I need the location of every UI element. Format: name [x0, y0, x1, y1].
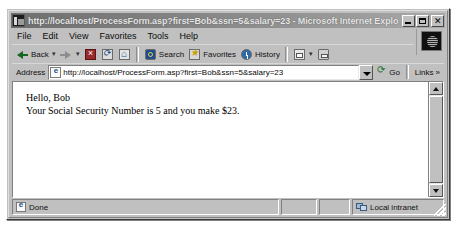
- security-zone-panel[interactable]: Local intranet: [352, 199, 444, 215]
- window-title: http://localhost/ProcessForm.asp?first=B…: [28, 16, 398, 26]
- menu-item-file[interactable]: File: [12, 30, 38, 43]
- favorites-button-label: Favorites: [203, 50, 236, 59]
- browser-logo-inner: [421, 31, 442, 51]
- go-button[interactable]: Go: [373, 65, 404, 80]
- close-button[interactable]: ✕: [431, 15, 444, 27]
- search-icon: [144, 48, 157, 61]
- rendered-page: Hello, Bob Your Social Security Number i…: [13, 82, 428, 197]
- print-button[interactable]: [315, 46, 332, 63]
- address-bar: Address http://localhost/ProcessForm.asp…: [12, 63, 444, 80]
- document-area: Hello, Bob Your Social Security Number i…: [12, 81, 444, 198]
- links-label: Links: [415, 68, 434, 77]
- back-button-label: Back: [31, 50, 49, 59]
- favorites-star-icon: [188, 48, 201, 61]
- stop-icon: [84, 48, 97, 61]
- close-icon: ✕: [432, 16, 443, 26]
- status-document-icon: [16, 202, 26, 212]
- menu-item-tools[interactable]: Tools: [142, 30, 174, 43]
- scroll-down-arrow-icon[interactable]: [429, 184, 443, 197]
- history-clock-icon: [240, 48, 253, 61]
- forward-button[interactable]: ▾: [58, 46, 82, 63]
- status-text: Done: [29, 203, 48, 212]
- maximize-button[interactable]: [416, 15, 429, 27]
- refresh-icon: [101, 48, 114, 61]
- title-bar[interactable]: http://localhost/ProcessForm.asp?first=B…: [11, 13, 445, 28]
- links-chevron-icon[interactable]: »: [436, 68, 440, 77]
- back-arrow-icon: [16, 48, 29, 61]
- window-controls: ✕: [402, 15, 444, 27]
- menu-item-help[interactable]: Help: [174, 30, 204, 43]
- address-bar-separator: [406, 65, 409, 79]
- forward-dropdown-caret-icon[interactable]: ▾: [76, 50, 80, 58]
- toolbar-separator: [136, 47, 139, 62]
- toolbar-separator-2: [285, 47, 288, 62]
- status-panel-secondary: [281, 199, 317, 215]
- scroll-up-arrow-icon[interactable]: [429, 82, 443, 95]
- menu-bar: File Edit View Favorites Tools Help: [12, 29, 414, 43]
- scrollbar-thumb[interactable]: [429, 96, 443, 183]
- internet-explorer-icon: [427, 36, 438, 47]
- history-button-label: History: [255, 50, 280, 59]
- stop-button[interactable]: [82, 46, 99, 63]
- search-button-label: Search: [159, 50, 184, 59]
- page-line-details: Your Social Security Number is 5 and you…: [26, 104, 428, 117]
- browser-logo: [416, 29, 444, 55]
- vertical-scrollbar[interactable]: [428, 82, 443, 197]
- status-panel-tertiary: [319, 199, 350, 215]
- local-intranet-icon: [356, 202, 367, 212]
- minimize-button[interactable]: [402, 15, 415, 27]
- minimize-icon: [405, 22, 411, 24]
- favorites-button[interactable]: Favorites: [186, 46, 238, 63]
- browser-window: http://localhost/ProcessForm.asp?first=B…: [6, 8, 450, 220]
- address-dropdown-button[interactable]: [359, 65, 373, 80]
- go-arrow-icon: [377, 67, 387, 77]
- maximize-icon: [419, 18, 426, 24]
- address-label: Address: [12, 68, 48, 77]
- history-button[interactable]: History: [238, 46, 282, 63]
- status-message-panel: Done: [12, 199, 279, 215]
- address-url-text: http://localhost/ProcessForm.asp?first=B…: [63, 68, 358, 77]
- refresh-button[interactable]: [99, 46, 116, 63]
- ie-document-icon: [12, 14, 25, 27]
- resize-grip[interactable]: [434, 204, 446, 216]
- menu-item-edit[interactable]: Edit: [38, 30, 65, 43]
- forward-arrow-icon: [60, 48, 73, 61]
- window-inner-frame: http://localhost/ProcessForm.asp?first=B…: [8, 10, 448, 218]
- mail-button[interactable]: ▾: [291, 46, 315, 63]
- back-button[interactable]: Back ▾: [14, 46, 58, 63]
- menu-item-favorites[interactable]: Favorites: [94, 30, 142, 43]
- mail-dropdown-caret-icon[interactable]: ▾: [309, 50, 313, 58]
- page-document-icon: [50, 67, 61, 78]
- go-button-label: Go: [389, 68, 400, 77]
- links-bar-button[interactable]: Links »: [411, 65, 444, 80]
- print-icon: [317, 48, 330, 61]
- address-input[interactable]: http://localhost/ProcessForm.asp?first=B…: [48, 65, 359, 80]
- toolbar: Back ▾ ▾ Search Favorit: [12, 44, 414, 63]
- security-zone-text: Local intranet: [370, 203, 418, 212]
- mail-icon: [293, 48, 306, 61]
- search-button[interactable]: Search: [142, 46, 186, 63]
- back-dropdown-caret-icon[interactable]: ▾: [52, 50, 56, 58]
- home-icon: [118, 48, 131, 61]
- status-bar: Done Local intranet: [12, 199, 444, 215]
- menu-item-view[interactable]: View: [64, 30, 94, 43]
- home-button[interactable]: [116, 46, 133, 63]
- page-line-greeting: Hello, Bob: [26, 91, 428, 104]
